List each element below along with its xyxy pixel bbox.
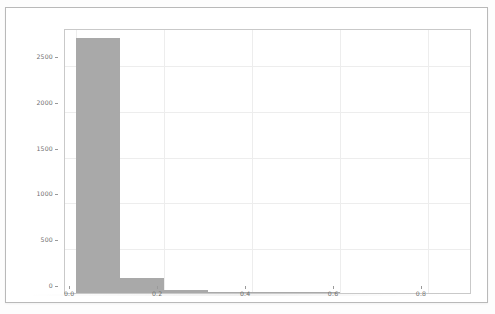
gridline-y-2 bbox=[65, 203, 470, 204]
histogram-bar bbox=[76, 38, 120, 293]
histogram-bar bbox=[296, 292, 340, 293]
gridline-y-4 bbox=[65, 112, 470, 113]
gridline-x-3 bbox=[340, 30, 341, 293]
scan-artifact bbox=[26, 294, 446, 296]
gridline-x-1 bbox=[164, 30, 165, 293]
histogram-bar bbox=[164, 290, 208, 293]
scanned-page: 05001000150020002500 0.00.20.40.60.8 bbox=[0, 0, 495, 314]
gridline-y-5 bbox=[65, 66, 470, 67]
gridline-x-4 bbox=[428, 30, 429, 293]
gridline-y-3 bbox=[65, 158, 470, 159]
histogram-bar bbox=[252, 292, 296, 293]
histogram-bar bbox=[120, 278, 164, 293]
gridline-x-2 bbox=[252, 30, 253, 293]
plot-area bbox=[64, 29, 471, 294]
gridline-y-1 bbox=[65, 249, 470, 250]
histogram-bar bbox=[208, 292, 252, 293]
figure-frame bbox=[5, 7, 488, 303]
